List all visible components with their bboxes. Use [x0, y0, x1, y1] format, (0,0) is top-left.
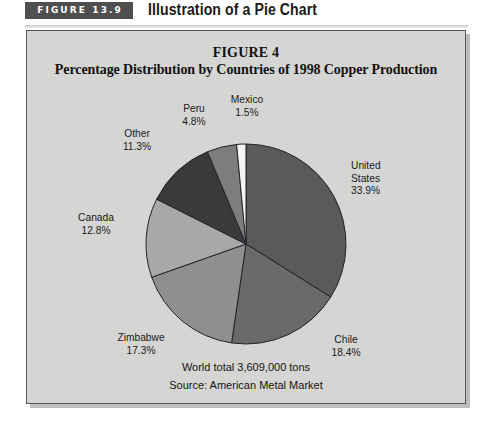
- pie-label-peru-name: Peru: [183, 102, 205, 114]
- pie-chart: Mexico 1.5% Peru 4.8% Other 11.3% Canada…: [27, 31, 465, 403]
- pie-label-mexico: Mexico 1.5%: [216, 93, 277, 118]
- pie-label-mexico-value: 1.5%: [216, 106, 277, 119]
- pie-label-canada-name: Canada: [78, 211, 114, 223]
- pie-label-united-states-name-1: United: [351, 159, 381, 171]
- pie-label-other-name: Other: [124, 127, 150, 139]
- pie-label-chile: Chile 18.4%: [317, 333, 375, 358]
- figure-number-label: FIGURE 13.9: [35, 6, 123, 15]
- pie-label-peru-value: 4.8%: [166, 115, 222, 128]
- figure-caption-title: Illustration of a Pie Chart: [148, 1, 317, 19]
- pie-label-canada: Canada 12.8%: [65, 211, 126, 236]
- pie-label-mexico-name: Mexico: [231, 93, 263, 105]
- pie-label-united-states-value: 33.9%: [351, 184, 409, 197]
- pie-label-zimbabwe: Zimbabwe 17.3%: [104, 331, 178, 356]
- chart-panel: FIGURE 4 Percentage Distribution by Coun…: [26, 30, 466, 404]
- chart-footnote-source: Source: American Metal Market: [27, 379, 465, 391]
- pie-label-canada-value: 12.8%: [65, 224, 126, 237]
- pie-label-zimbabwe-value: 17.3%: [104, 344, 178, 357]
- figure-number-badge: FIGURE 13.9: [25, 2, 133, 19]
- header-divider: [25, 25, 468, 28]
- pie-label-chile-value: 18.4%: [317, 346, 375, 359]
- pie-label-zimbabwe-name: Zimbabwe: [117, 331, 164, 343]
- pie-slices: [146, 144, 346, 344]
- pie-label-chile-name: Chile: [334, 333, 357, 345]
- pie-label-united-states: United States 33.9%: [351, 159, 409, 197]
- pie-label-other: Other 11.3%: [108, 127, 166, 152]
- figure-header: FIGURE 13.9 Illustration of a Pie Chart: [0, 0, 490, 28]
- chart-footnote-total: World total 3,609,000 tons: [27, 361, 465, 373]
- pie-label-united-states-name-2: States: [351, 172, 409, 185]
- pie-label-other-value: 11.3%: [108, 140, 166, 153]
- pie-label-peru: Peru 4.8%: [166, 102, 222, 127]
